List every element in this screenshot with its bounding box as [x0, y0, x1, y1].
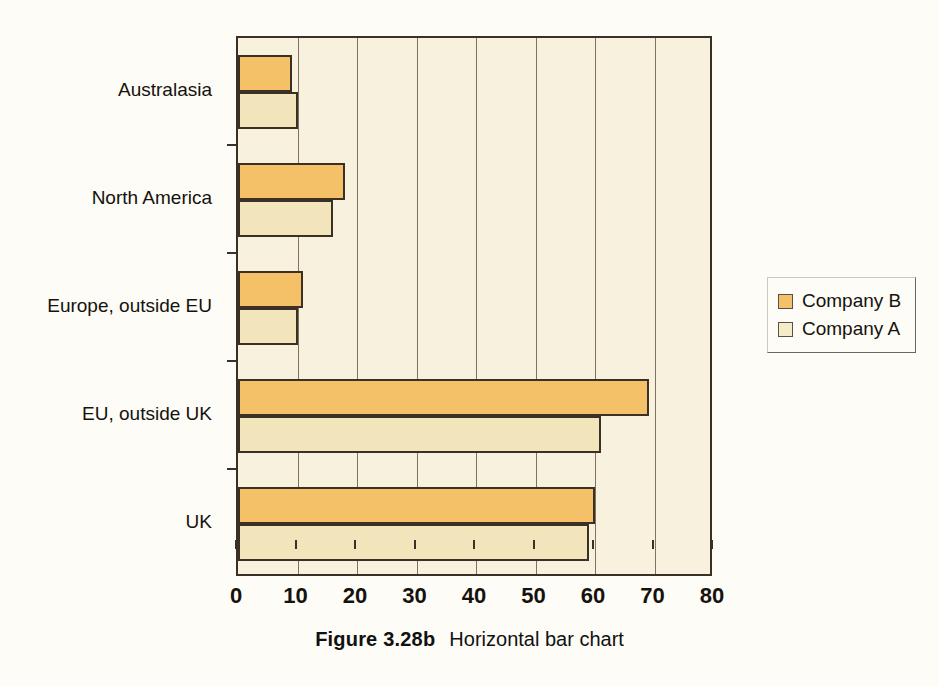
- y-axis-tick: [227, 252, 236, 254]
- x-axis-tick: [414, 540, 416, 549]
- x-axis-tick-label: 20: [343, 583, 367, 609]
- y-axis-category-label: UK: [0, 511, 224, 533]
- x-axis-tick-labels: 01020304050607080: [236, 583, 712, 613]
- x-axis-tick: [711, 540, 713, 549]
- bar-company-a-north-america: [238, 200, 333, 237]
- figure-horizontal-bar-chart: AustralasiaNorth AmericaEurope, outside …: [0, 0, 939, 686]
- bar-company-b-north-america: [238, 163, 345, 200]
- legend-swatch-icon: [778, 294, 793, 309]
- x-axis-tick: [652, 540, 654, 549]
- x-gridline: [595, 38, 596, 574]
- y-axis-category-label: Australasia: [0, 79, 224, 101]
- bar-company-b-europe-outside-eu: [238, 271, 303, 308]
- legend-item-label: Company B: [802, 290, 901, 312]
- x-axis-tick-label: 80: [700, 583, 724, 609]
- y-axis-tick: [227, 468, 236, 470]
- x-axis-tick-label: 40: [462, 583, 486, 609]
- x-axis-tick-label: 10: [283, 583, 307, 609]
- x-axis-tick: [295, 540, 297, 549]
- x-axis-tick-label: 50: [521, 583, 545, 609]
- chart-plot-area: [236, 36, 712, 576]
- y-axis-tick: [227, 144, 236, 146]
- x-axis-tick: [235, 540, 237, 549]
- figure-caption: Figure 3.28bHorizontal bar chart: [0, 628, 939, 651]
- x-axis-tick: [533, 540, 535, 549]
- x-gridline: [655, 38, 656, 574]
- x-axis-tick: [592, 540, 594, 549]
- bar-company-b-australasia: [238, 55, 292, 92]
- x-axis-tick-label: 60: [581, 583, 605, 609]
- bar-company-a-australasia: [238, 92, 298, 129]
- bar-company-b-uk: [238, 487, 595, 524]
- legend-item: Company A: [778, 315, 901, 343]
- legend-item: Company B: [778, 287, 901, 315]
- figure-number: Figure 3.28b: [315, 628, 435, 650]
- y-axis-category-label: North America: [0, 187, 224, 209]
- bar-company-b-eu-outside-uk: [238, 379, 649, 416]
- y-axis-category-label: Europe, outside EU: [0, 295, 224, 317]
- legend-swatch-icon: [778, 322, 793, 337]
- x-axis-tick-label: 0: [230, 583, 242, 609]
- bar-company-a-eu-outside-uk: [238, 416, 601, 453]
- legend-item-label: Company A: [802, 318, 900, 340]
- x-axis-tick-label: 70: [640, 583, 664, 609]
- x-axis-tick-label: 30: [402, 583, 426, 609]
- y-axis-category-label: EU, outside UK: [0, 403, 224, 425]
- x-axis-tick: [354, 540, 356, 549]
- chart-legend: Company BCompany A: [767, 277, 916, 353]
- bar-company-a-europe-outside-eu: [238, 308, 298, 345]
- figure-title: Horizontal bar chart: [449, 628, 624, 650]
- chart-plot-inner: [238, 38, 710, 574]
- y-axis-tick: [227, 360, 236, 362]
- x-axis-tick: [473, 540, 475, 549]
